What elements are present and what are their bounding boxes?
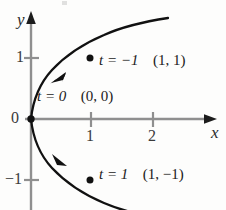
direction-arrow-lower-stroke [52, 154, 67, 166]
annotation-t-zero: t = 0 (0, 0) [37, 89, 113, 104]
annotation-t-zero-param: t = 0 [37, 88, 66, 104]
y-tick-label-minus-1: −1 [5, 171, 22, 187]
annotation-t-minus-1: t = −1 (1, 1) [99, 53, 185, 68]
annotation-t-one: t = 1 (1, −1) [99, 167, 184, 182]
annotation-t-one-param: t = 1 [99, 166, 128, 182]
x-axis-label: x [211, 124, 219, 141]
direction-arrow-upper-stroke [51, 72, 66, 83]
dot-origin [27, 115, 34, 122]
annotation-t-minus-1-param: t = −1 [99, 52, 138, 68]
y-axis-label: y [17, 11, 25, 28]
annotation-t-minus-1-coord: (1, 1) [153, 52, 186, 68]
dot-t-one [87, 177, 94, 184]
x-tick-label-2: 2 [148, 128, 156, 144]
annotation-t-one-coord: (1, −1) [143, 166, 184, 182]
parametric-curve-figure: y x 0 1 −1 1 2 t = −1 (1, 1) t = 0 (0, 0… [0, 0, 226, 210]
origin-label: 0 [11, 110, 19, 126]
dot-t-minus-1 [87, 55, 94, 62]
y-tick-label-1: 1 [16, 49, 24, 65]
x-tick-label-1: 1 [86, 128, 94, 144]
scan-artifact [62, 1, 67, 5]
y-axis-arrowhead [26, 11, 36, 24]
annotation-t-zero-coord: (0, 0) [81, 88, 114, 104]
